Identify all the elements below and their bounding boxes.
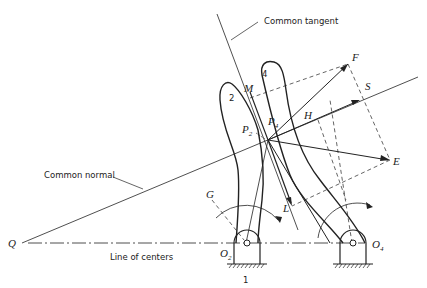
label-H: H — [303, 109, 313, 121]
label-link-1: 1 — [243, 275, 248, 285]
link-2-outline — [220, 83, 263, 243]
pin-O4 — [350, 240, 356, 246]
pivot-O4 — [340, 230, 366, 264]
label-S: S — [365, 80, 371, 92]
label-link-2: 2 — [229, 93, 234, 103]
caption-common-normal: Common normal — [44, 170, 115, 180]
dash-E-L — [292, 160, 390, 206]
caption-common-tangent: Common tangent — [264, 16, 339, 26]
leader-common-normal — [113, 177, 143, 189]
vector-PL — [268, 140, 291, 203]
dash-O4-perp — [330, 100, 352, 243]
link-2-inner-line — [246, 140, 268, 243]
label-G: G — [206, 188, 214, 200]
label-P4: P4 — [267, 115, 279, 130]
vector-PS — [268, 101, 358, 140]
label-Q: Q — [8, 237, 16, 249]
label-L: L — [282, 202, 289, 214]
label-E: E — [392, 155, 400, 167]
vector-PE — [268, 140, 388, 160]
caption-line-of-centers: Line of centers — [110, 252, 174, 262]
dash-H-down — [318, 120, 346, 200]
cam-follower-diagram: Common tangent Common normal Line of cen… — [0, 0, 427, 288]
label-F: F — [351, 51, 359, 63]
pin-O2 — [244, 240, 250, 246]
rotation-arrow-2 — [275, 216, 282, 223]
label-O2: O2 — [220, 247, 232, 262]
dash-F-E — [348, 64, 390, 160]
leader-common-tangent — [231, 22, 258, 40]
rotation-arc-2 — [216, 205, 278, 220]
vector-PF — [268, 64, 348, 140]
pivot-O2 — [234, 230, 260, 264]
leader-P2 — [256, 133, 265, 139]
rotation-arrow-4 — [366, 202, 373, 209]
label-O4: O4 — [372, 238, 384, 253]
label-link-4: 4 — [262, 69, 267, 79]
label-P2: P2 — [241, 123, 253, 138]
label-M: M — [243, 82, 254, 94]
rotation-arc-4 — [318, 203, 370, 238]
common-tangent-line — [217, 14, 298, 230]
